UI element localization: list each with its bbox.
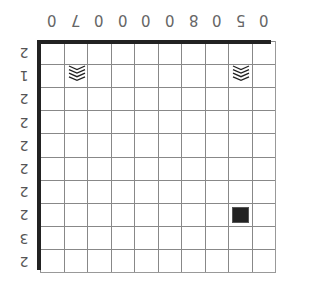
grid-cell[interactable]	[111, 87, 135, 110]
grid-cell[interactable]	[228, 41, 252, 64]
grid-cell[interactable]	[181, 157, 205, 180]
grid-cell[interactable]	[40, 226, 64, 249]
grid-cell[interactable]	[205, 87, 229, 110]
grid-cell[interactable]	[87, 249, 111, 272]
grid-cell[interactable]	[228, 180, 252, 203]
grid-cell[interactable]	[134, 110, 158, 133]
grid-cell[interactable]	[64, 41, 88, 64]
grid-cell[interactable]	[134, 226, 158, 249]
grid-cell[interactable]	[158, 249, 182, 272]
grid-cell[interactable]	[228, 226, 252, 249]
grid-cell[interactable]	[87, 157, 111, 180]
grid-cell[interactable]	[134, 133, 158, 156]
grid-cell[interactable]	[158, 180, 182, 203]
grid-cell[interactable]	[158, 203, 182, 226]
grid-cell[interactable]	[111, 133, 135, 156]
grid-cell[interactable]	[181, 226, 205, 249]
grid-cell[interactable]	[134, 64, 158, 87]
grid-cell[interactable]	[64, 180, 88, 203]
grid-cell[interactable]	[134, 157, 158, 180]
grid-cell[interactable]	[111, 64, 135, 87]
grid-cell[interactable]	[205, 41, 229, 64]
grid-cell[interactable]	[87, 203, 111, 226]
grid-cell[interactable]	[87, 133, 111, 156]
grid-cell[interactable]	[252, 41, 276, 64]
grid-cell[interactable]	[64, 64, 88, 87]
grid-cell[interactable]	[40, 180, 64, 203]
grid-cell[interactable]	[87, 87, 111, 110]
grid-cell[interactable]	[228, 87, 252, 110]
grid-cell[interactable]	[158, 157, 182, 180]
grid-cell[interactable]	[252, 64, 276, 87]
grid-cell[interactable]	[111, 203, 135, 226]
grid-cell[interactable]	[158, 87, 182, 110]
grid-cell[interactable]	[205, 226, 229, 249]
grid-cell[interactable]	[40, 87, 64, 110]
grid-cell[interactable]	[158, 64, 182, 87]
grid-cell[interactable]	[40, 110, 64, 133]
grid-cell[interactable]	[40, 249, 64, 272]
grid-cell[interactable]	[228, 157, 252, 180]
grid-cell[interactable]	[64, 203, 88, 226]
grid-cell[interactable]	[228, 133, 252, 156]
grid-cell[interactable]	[252, 203, 276, 226]
grid-cell[interactable]	[87, 64, 111, 87]
grid-cell[interactable]	[205, 110, 229, 133]
grid-cell[interactable]	[111, 226, 135, 249]
grid-cell[interactable]	[228, 64, 252, 87]
grid-cell[interactable]	[205, 249, 229, 272]
grid-cell[interactable]	[252, 226, 276, 249]
grid-cell[interactable]	[181, 180, 205, 203]
grid-cell[interactable]	[181, 87, 205, 110]
grid-cell[interactable]	[205, 203, 229, 226]
grid-cell[interactable]	[158, 226, 182, 249]
grid-cell[interactable]	[64, 133, 88, 156]
grid-cell[interactable]	[205, 157, 229, 180]
grid-cell[interactable]	[87, 110, 111, 133]
grid-cell[interactable]	[111, 157, 135, 180]
grid-cell[interactable]	[181, 64, 205, 87]
grid-cell[interactable]	[252, 110, 276, 133]
grid-cell[interactable]	[64, 249, 88, 272]
grid-cell[interactable]	[205, 180, 229, 203]
grid-cell[interactable]	[181, 133, 205, 156]
grid-cell[interactable]	[181, 203, 205, 226]
grid-cell[interactable]	[134, 180, 158, 203]
grid-cell[interactable]	[40, 133, 64, 156]
grid-cell[interactable]	[134, 87, 158, 110]
grid-cell[interactable]	[134, 41, 158, 64]
grid-cell[interactable]	[158, 110, 182, 133]
grid-cell[interactable]	[87, 226, 111, 249]
grid-cell[interactable]	[252, 87, 276, 110]
grid-cell[interactable]	[64, 157, 88, 180]
grid-cell[interactable]	[64, 110, 88, 133]
grid-cell[interactable]	[205, 133, 229, 156]
grid-cell[interactable]	[64, 87, 88, 110]
grid-cell[interactable]	[252, 133, 276, 156]
grid-cell[interactable]	[111, 110, 135, 133]
grid-cell[interactable]	[134, 249, 158, 272]
grid-cell[interactable]	[87, 180, 111, 203]
grid-cell[interactable]	[40, 203, 64, 226]
grid-cell[interactable]	[40, 157, 64, 180]
grid-cell[interactable]	[252, 180, 276, 203]
grid-cell[interactable]	[228, 249, 252, 272]
grid-cell[interactable]	[87, 41, 111, 64]
grid-cell[interactable]	[64, 226, 88, 249]
grid-cell[interactable]	[134, 203, 158, 226]
grid-cell[interactable]	[205, 64, 229, 87]
grid-cell[interactable]	[181, 41, 205, 64]
grid-cell[interactable]	[40, 64, 64, 87]
grid-cell[interactable]	[40, 41, 64, 64]
grid-cell[interactable]	[111, 249, 135, 272]
grid-cell[interactable]	[181, 249, 205, 272]
grid-cell[interactable]	[111, 180, 135, 203]
grid-cell[interactable]	[181, 110, 205, 133]
grid-cell[interactable]	[158, 133, 182, 156]
grid-cell[interactable]	[228, 110, 252, 133]
grid-cell[interactable]	[252, 249, 276, 272]
grid-cell[interactable]	[228, 203, 252, 226]
grid-cell[interactable]	[158, 41, 182, 64]
grid-cell[interactable]	[252, 157, 276, 180]
grid-cell[interactable]	[111, 41, 135, 64]
